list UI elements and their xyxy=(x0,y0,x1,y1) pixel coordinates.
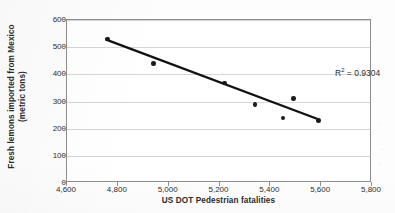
x-axis-tick-mark xyxy=(371,182,372,186)
y-axis-tick-label: 300 xyxy=(26,96,66,105)
data-point xyxy=(253,102,258,107)
y-axis-tick-label: 100 xyxy=(26,150,66,159)
r-squared-annotation: R2 = 0.9304 xyxy=(335,67,380,78)
y-axis-tick-mark xyxy=(62,73,66,74)
y-axis-tick-mark xyxy=(62,101,66,102)
x-axis-tick-label: 5,400 xyxy=(249,185,289,194)
y-axis-tick-mark xyxy=(62,19,66,20)
y-axis-tick-mark xyxy=(62,46,66,47)
scan-speck: · xyxy=(381,146,383,153)
data-point xyxy=(222,81,227,86)
y-axis-tick-label: 200 xyxy=(26,123,66,132)
x-axis-tick-label: 4,800 xyxy=(97,185,137,194)
y-axis-tick-mark xyxy=(62,128,66,129)
x-axis-tick-label: 5,200 xyxy=(199,185,239,194)
x-axis-tick-mark xyxy=(117,182,118,186)
x-axis-tick-mark xyxy=(320,182,321,186)
x-axis-tick-mark xyxy=(66,182,67,186)
r-squared-value: = 0.9304 xyxy=(344,68,380,78)
y-axis-title-line1: Fresh lemons imported from Mexico xyxy=(7,24,16,168)
scan-speck: ∙ xyxy=(379,160,381,167)
x-axis-tick-label: 4,600 xyxy=(46,185,86,194)
chart-figure: Fresh lemons imported from Mexico (metri… xyxy=(0,0,395,213)
data-point xyxy=(151,61,156,66)
trend-line xyxy=(67,20,370,181)
x-axis-tick-mark xyxy=(168,182,169,186)
x-axis-title: US DOT Pedestrian fatalities xyxy=(66,196,371,205)
y-axis-tick-label: 400 xyxy=(26,69,66,78)
x-axis-tick-label: 5,600 xyxy=(300,185,340,194)
x-axis-tick-mark xyxy=(269,182,270,186)
y-axis-tick-label: 500 xyxy=(26,42,66,51)
y-axis-tick-mark xyxy=(62,155,66,156)
x-axis-tick-label: 5,000 xyxy=(148,185,188,194)
data-point xyxy=(316,118,321,123)
x-axis-tick-label: 5,800 xyxy=(351,185,391,194)
y-axis-tick-label: 600 xyxy=(26,15,66,24)
scan-speck: ∙ xyxy=(378,120,380,127)
data-point xyxy=(291,96,296,101)
x-axis-tick-mark xyxy=(219,182,220,186)
plot-area: R2 = 0.9304 xyxy=(66,19,371,182)
data-layer xyxy=(67,20,370,181)
